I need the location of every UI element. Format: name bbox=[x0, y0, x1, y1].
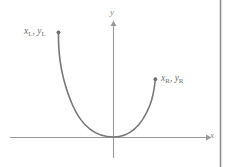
x-axis-label: x bbox=[210, 131, 214, 140]
right-point-y-subscript: R bbox=[179, 77, 184, 85]
left-endpoint-marker bbox=[57, 30, 61, 34]
y-axis-arrowhead bbox=[111, 21, 117, 27]
left-point-label: xL, yL bbox=[24, 27, 46, 37]
figure-canvas: xL, yL xR, yR y x bbox=[0, 0, 227, 167]
y-axis-label: y bbox=[110, 8, 114, 17]
left-point-x-subscript: L bbox=[28, 30, 32, 38]
right-point-label: xR, yR bbox=[161, 74, 184, 84]
right-endpoint-marker bbox=[154, 77, 158, 81]
right-point-x-subscript: R bbox=[165, 77, 170, 85]
parabola-curve bbox=[58, 33, 155, 138]
left-point-y-subscript: L bbox=[41, 30, 45, 38]
